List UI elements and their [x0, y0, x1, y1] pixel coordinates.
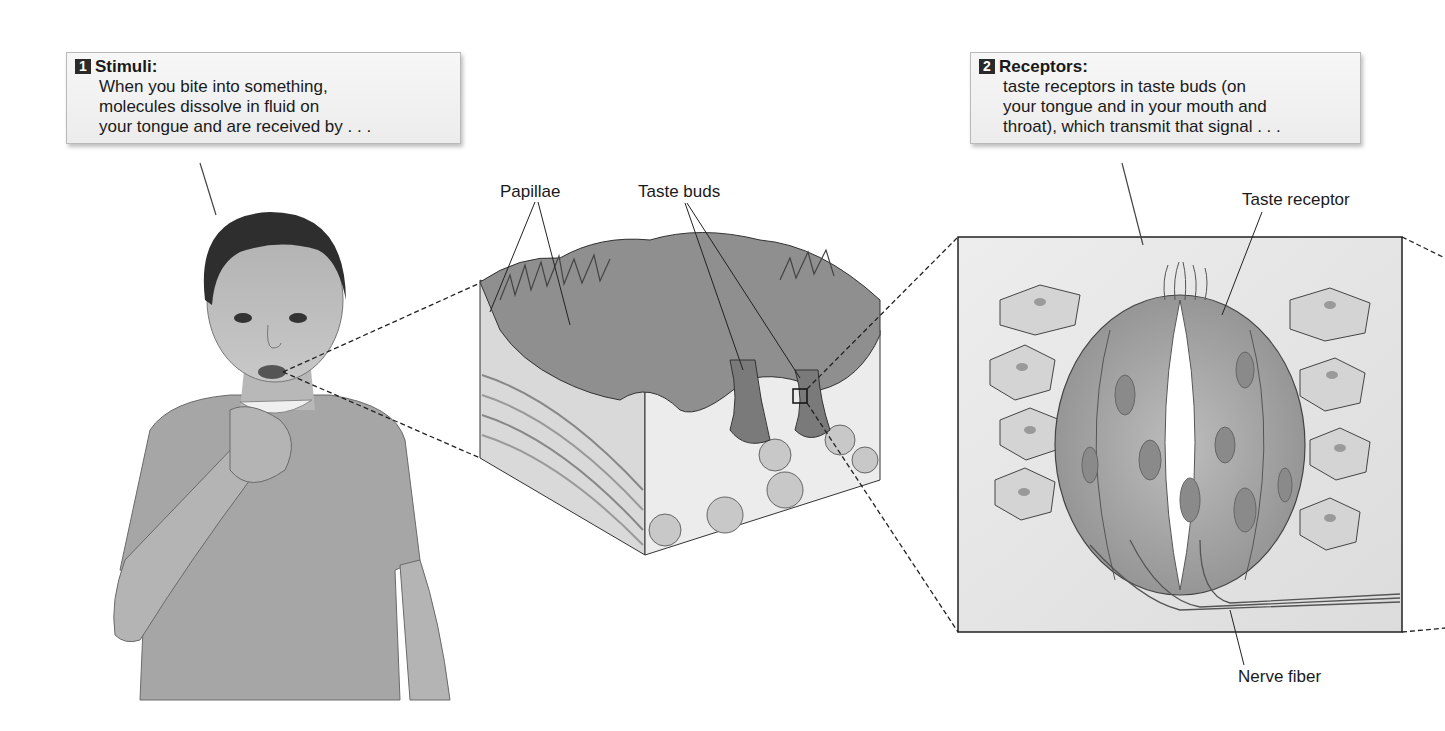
taste-bud-detail-panel: [958, 237, 1402, 632]
callout-body: When you bite into something, molecules …: [75, 77, 452, 137]
label-nerve-fiber: Nerve fiber: [1238, 667, 1321, 687]
zoom-line-receptor-lower: [807, 403, 958, 632]
boy-figure: [114, 212, 450, 700]
step-number-badge: 2: [979, 59, 995, 74]
label-taste-buds: Taste buds: [638, 182, 720, 202]
callout-stimuli: 1Stimuli: When you bite into something, …: [66, 52, 461, 144]
tongue-tissue-block: [480, 233, 880, 556]
callout-body: taste receptors in taste buds (on your t…: [979, 77, 1352, 137]
callout-1-leader-line: [200, 163, 216, 215]
callout-receptors: 2Receptors: taste receptors in taste bud…: [970, 52, 1361, 144]
step-number-badge: 1: [75, 59, 91, 74]
label-taste-receptor: Taste receptor: [1242, 190, 1350, 210]
callout-title: Stimuli:: [95, 57, 157, 76]
label-papillae: Papillae: [500, 182, 561, 202]
callout-title: Receptors:: [999, 57, 1088, 76]
callout-2-leader-line: [1122, 163, 1143, 245]
